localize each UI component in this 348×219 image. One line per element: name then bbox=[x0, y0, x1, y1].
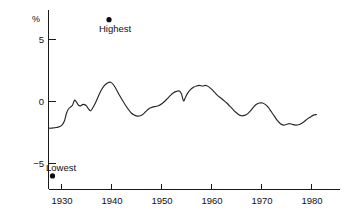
line-chart-canvas bbox=[0, 0, 348, 219]
y-axis-ticks bbox=[49, 40, 56, 164]
x-axis-ticks bbox=[62, 184, 312, 190]
chart-container: % 5 0 −5 1930 1940 1950 1960 1970 1980 H… bbox=[0, 0, 348, 219]
x-tick-label-1980: 1980 bbox=[292, 196, 332, 206]
x-tick-label-1930: 1930 bbox=[42, 196, 82, 206]
x-tick-label-1960: 1960 bbox=[192, 196, 232, 206]
x-tick-label-1970: 1970 bbox=[242, 196, 282, 206]
lowest-marker-dot bbox=[50, 173, 55, 178]
y-tick-label-0: 0 bbox=[24, 97, 44, 107]
x-tick-label-1950: 1950 bbox=[142, 196, 182, 206]
y-tick-label-minus-5: −5 bbox=[18, 159, 44, 169]
data-series-line bbox=[49, 82, 317, 128]
y-tick-label-5: 5 bbox=[24, 35, 44, 45]
highest-marker-dot bbox=[106, 17, 111, 22]
lowest-annotation-label: Lowest bbox=[46, 163, 76, 173]
x-tick-label-1940: 1940 bbox=[92, 196, 132, 206]
highest-annotation-label: Highest bbox=[99, 24, 131, 34]
y-axis-title: % bbox=[32, 15, 40, 24]
